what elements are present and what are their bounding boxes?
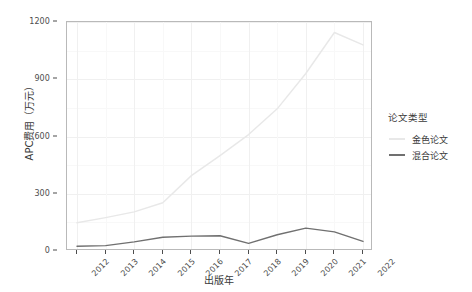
plot-panel [66,21,372,250]
line-series [77,228,363,246]
x-axis-title: 出版年 [66,272,372,287]
line-series [77,32,363,222]
legend-item: 金色论文 [388,131,470,147]
legend-entries: 金色论文混合论文 [388,131,470,163]
chart-root: APC费用（万元） 03006009001200 201220132014201… [0,0,472,292]
legend-item-label: 金色论文 [412,133,448,146]
x-tick-mark [190,250,191,254]
legend-item: 混合论文 [388,147,470,163]
legend-item-label: 混合论文 [412,149,448,162]
y-tick-mark [53,21,57,22]
x-tick-mark [162,250,163,254]
x-tick-mark [76,250,77,254]
x-tick-mark [276,250,277,254]
legend: 论文类型 金色论文混合论文 [388,110,470,163]
x-tick-mark [362,250,363,254]
x-tick-mark [248,250,249,254]
x-tick-mark [333,250,334,254]
y-tick-label: 0 [45,246,50,255]
y-tick-label: 900 [34,74,50,83]
legend-key-line-icon [388,131,406,147]
y-tick-label: 1200 [29,17,50,26]
x-tick-mark [219,250,220,254]
legend-key-line-icon [388,147,406,163]
y-axis-ticks: 03006009001200 [0,21,58,250]
legend-title: 论文类型 [388,110,470,124]
y-tick-mark [53,250,57,251]
y-tick-label: 600 [34,131,50,140]
x-tick-mark [133,250,134,254]
x-tick-label: 2022 [376,257,397,278]
series-lines [67,22,372,250]
y-tick-mark [53,135,57,136]
y-tick-label: 300 [34,188,50,197]
y-tick-mark [53,78,57,79]
x-tick-mark [305,250,306,254]
x-tick-mark [105,250,106,254]
y-tick-mark [53,192,57,193]
